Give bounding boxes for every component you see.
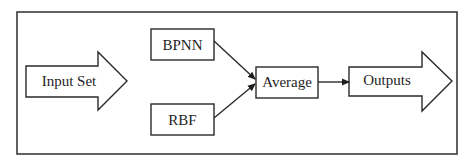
bpnn-label: BPNN — [162, 37, 202, 53]
bpnn-node: BPNN — [151, 29, 214, 60]
rbf-node: RBF — [151, 104, 214, 135]
ensemble-model-diagram: Input Set BPNN RBF Average Outputs — [0, 0, 475, 162]
outputs-label: Outputs — [363, 72, 411, 88]
average-node: Average — [256, 67, 318, 98]
rbf-label: RBF — [168, 112, 196, 128]
average-label: Average — [262, 74, 312, 90]
input-set-label: Input Set — [42, 73, 97, 89]
